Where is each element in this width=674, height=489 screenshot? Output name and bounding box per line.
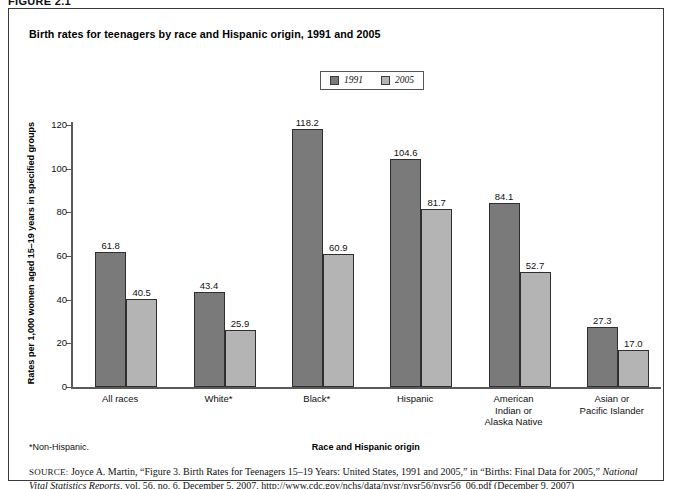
bar-1991[interactable]: 104.6	[390, 159, 421, 387]
bar-group: 118.260.9	[292, 121, 354, 387]
bar-2005[interactable]: 40.5	[126, 299, 157, 387]
legend-swatch-2005	[381, 76, 390, 85]
x-axis-category-line: Black*	[268, 393, 366, 405]
bar-2005[interactable]: 52.7	[520, 272, 551, 387]
x-axis-category-line: American	[464, 393, 562, 405]
x-axis-category-line: Hispanic	[366, 393, 464, 405]
y-axis-title-text: Rates per 1,000 women aged 15–19 years i…	[25, 126, 36, 384]
bar-value-label: 17.0	[624, 338, 643, 349]
bar-value-label: 84.1	[495, 191, 514, 202]
y-axis-tick-label: 0	[62, 381, 67, 392]
chart-plot-area: 020406080100120 61.840.543.425.9118.260.…	[71, 119, 661, 391]
bar-value-label: 118.2	[296, 117, 319, 128]
figure-footnote: *Non-Hispanic.	[29, 442, 89, 452]
source-label: SOURCE:	[29, 467, 68, 477]
legend-entry-1991: 1991	[330, 76, 363, 86]
x-axis-title-text: Race and Hispanic origin	[312, 441, 420, 452]
y-axis-tick-label: 20	[56, 337, 67, 348]
legend-label-2005: 2005	[395, 76, 414, 86]
bar-group: 43.425.9	[194, 121, 256, 387]
bar-value-label: 43.4	[200, 280, 219, 291]
x-axis-category-label: White*	[169, 393, 267, 405]
bar-1991[interactable]: 27.3	[587, 327, 618, 387]
x-axis-category-label: All races	[71, 393, 169, 405]
figure-frame: Birth rates for teenagers by race and Hi…	[8, 8, 664, 481]
bar-value-label: 104.6	[394, 147, 418, 158]
legend-swatch-1991	[330, 76, 339, 85]
x-axis-category-label: Black*	[268, 393, 366, 405]
bar-value-label: 60.9	[329, 242, 348, 253]
y-axis-tick-label: 40	[56, 294, 67, 305]
bar-2005[interactable]: 60.9	[323, 254, 354, 387]
bar-value-label: 27.3	[593, 315, 612, 326]
figure-source: SOURCE: Joyce A. Martin, “Figure 3. Birt…	[29, 465, 657, 489]
legend-entry-2005: 2005	[381, 76, 414, 86]
bar-group: 27.317.0	[587, 121, 649, 387]
y-axis-title: Rates per 1,000 women aged 15–19 years i…	[25, 119, 37, 391]
bar-1991[interactable]: 61.8	[95, 252, 126, 387]
source-text-1: Joyce A. Martin, “Figure 3. Birth Rates …	[68, 466, 602, 477]
bar-group: 104.681.7	[390, 121, 452, 387]
x-axis-category-line: White*	[169, 393, 267, 405]
legend-label-1991: 1991	[344, 76, 363, 86]
x-axis-category-label: Asian orPacific Islander	[563, 393, 661, 416]
y-axis-line	[71, 122, 73, 388]
y-axis-tick-label: 80	[56, 206, 67, 217]
figure-number: FIGURE 2.1	[8, 0, 71, 7]
y-axis-tick-label: 60	[56, 250, 67, 261]
x-axis-category-label: AmericanIndian orAlaska Native	[464, 393, 562, 428]
y-axis-tick-label: 120	[51, 119, 67, 130]
x-axis-category-line: All races	[71, 393, 169, 405]
x-axis-line	[71, 387, 661, 389]
x-axis-category-line: Alaska Native	[464, 416, 562, 428]
x-axis-title: Race and Hispanic origin	[71, 441, 661, 452]
bar-value-label: 61.8	[101, 240, 120, 251]
bar-value-label: 40.5	[132, 287, 151, 298]
bar-1991[interactable]: 84.1	[489, 203, 520, 387]
chart-legend: 1991 2005	[320, 71, 424, 90]
bar-2005[interactable]: 81.7	[421, 209, 452, 387]
bar-2005[interactable]: 17.0	[618, 350, 649, 387]
bar-2005[interactable]: 25.9	[225, 330, 256, 387]
bar-1991[interactable]: 43.4	[194, 292, 225, 387]
x-axis-category-label: Hispanic	[366, 393, 464, 405]
bar-group: 84.152.7	[489, 121, 551, 387]
x-axis-category-line: Asian or	[563, 393, 661, 405]
y-axis-tick-label: 100	[51, 163, 67, 174]
x-axis-category-line: Pacific Islander	[563, 405, 661, 417]
bar-group: 61.840.5	[95, 121, 157, 387]
bar-1991[interactable]: 118.2	[292, 129, 323, 387]
bar-value-label: 25.9	[231, 318, 250, 329]
x-axis-category-line: Indian or	[464, 405, 562, 417]
bar-value-label: 52.7	[526, 260, 545, 271]
bar-value-label: 81.7	[427, 197, 446, 208]
source-text-2: , vol. 56, no. 6, December 5, 2007, http…	[120, 480, 574, 489]
figure-title: Birth rates for teenagers by race and Hi…	[29, 28, 381, 40]
